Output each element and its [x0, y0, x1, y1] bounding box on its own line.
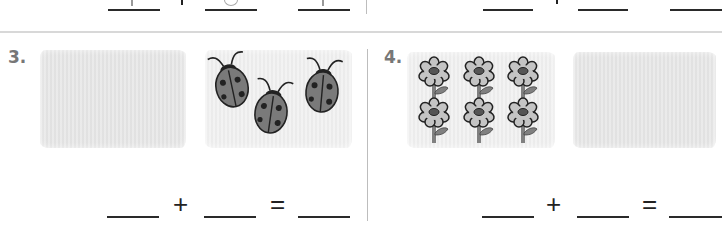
equals-sign: = — [642, 191, 657, 217]
answer-blank[interactable] — [298, 9, 350, 11]
addend-2-blank[interactable] — [204, 216, 256, 218]
empty-picture-box — [40, 50, 186, 148]
empty-picture-box — [573, 52, 716, 148]
ladybugs-illustration — [205, 50, 352, 148]
faint-answer-glyph — [224, 0, 238, 6]
flower-icon — [418, 98, 450, 143]
sum-blank[interactable] — [298, 216, 350, 218]
ladybug-icon — [250, 78, 293, 135]
plus-sign: + — [173, 191, 188, 217]
plus-sign-partial — [556, 0, 558, 4]
flowers-illustration — [407, 52, 555, 148]
addend-1-blank[interactable] — [482, 216, 534, 218]
answer-blank[interactable] — [483, 9, 533, 11]
vertical-divider — [367, 49, 368, 221]
vertical-divider-top — [366, 0, 367, 14]
faint-answer-glyph — [322, 0, 324, 6]
equals-sign: = — [270, 191, 285, 217]
ladybug-icon — [208, 51, 254, 110]
answer-blank[interactable] — [578, 9, 628, 11]
addend-2-blank[interactable] — [577, 216, 629, 218]
problem-number: 3. — [8, 47, 26, 67]
flower-icon — [507, 57, 539, 102]
flower-icon — [463, 57, 495, 102]
answer-blank[interactable] — [205, 9, 257, 11]
addend-1-blank[interactable] — [107, 216, 159, 218]
flower-icon — [463, 98, 495, 143]
plus-sign: + — [546, 191, 561, 217]
flower-icon — [507, 98, 539, 143]
answer-blank[interactable] — [108, 9, 160, 11]
problem-number: 4. — [384, 47, 402, 67]
faint-answer-glyph — [131, 0, 133, 6]
ladybug-icon — [302, 58, 342, 114]
sum-blank[interactable] — [669, 216, 722, 218]
answer-blank[interactable] — [670, 9, 722, 11]
flower-picture-box — [407, 52, 555, 148]
flower-icon — [418, 57, 450, 102]
horizontal-divider — [0, 31, 722, 33]
ladybug-picture-box — [205, 50, 352, 148]
plus-sign-partial — [181, 0, 183, 5]
